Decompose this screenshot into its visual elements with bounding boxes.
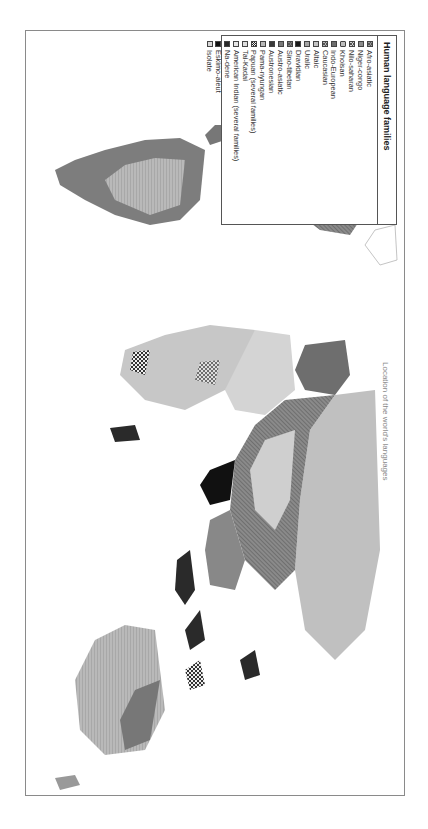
legend-swatch-icon: [358, 41, 364, 47]
legend-label: Altaic: [312, 50, 321, 68]
legend-swatch-icon: [251, 41, 257, 47]
legend-item: Sino-tibetan: [285, 41, 294, 219]
legend-swatch-icon: [260, 41, 266, 47]
legend-item: Austronesian: [267, 41, 276, 219]
legend-swatch-icon: [207, 41, 213, 47]
legend-title: Human language families: [377, 36, 396, 224]
legend-item: Dravidian: [294, 41, 303, 219]
legend-swatch-icon: [287, 41, 293, 47]
legend-item: Austro-asiatic: [276, 41, 285, 219]
madagascar-region: [110, 425, 140, 442]
legend-swatch-icon: [242, 41, 248, 47]
legend-item: Nilo-saharan: [347, 41, 356, 219]
legend-swatch-icon: [340, 41, 346, 47]
legend-label: American Indian (several families): [232, 50, 241, 161]
dravidian-region: [200, 460, 235, 505]
legend-swatch-icon: [278, 41, 284, 47]
legend-swatch-icon: [215, 41, 221, 47]
map-caption: Location of the world's languages: [381, 362, 390, 481]
legend-label: Uralic: [303, 50, 312, 69]
legend-label: Isolate: [205, 50, 214, 72]
legend-item: Uralic: [303, 41, 312, 219]
legend-label: Austro-asiatic: [276, 50, 285, 95]
legend-item: Papuan (several families): [250, 41, 259, 219]
legend-label: Na-dene: [223, 50, 232, 78]
legend-item: Afro-asiatic: [365, 41, 374, 219]
legend-label: Nilo-saharan: [347, 50, 356, 92]
legend-label: Papuan (several families): [249, 50, 258, 133]
legend-label: Sino-tibetan: [285, 50, 294, 89]
papuan-region: [185, 660, 205, 690]
legend-label: Niger-congo: [356, 50, 365, 90]
legend-swatch-icon: [367, 41, 373, 47]
legend-label: Khoisan: [338, 50, 347, 77]
legend-swatch-icon: [322, 41, 328, 47]
legend-item: Caucasian: [321, 41, 330, 219]
map-canvas: Human language families Afro-asiaticNige…: [25, 30, 405, 796]
legend-swatch-icon: [349, 41, 355, 47]
legend-item: Khoisan: [338, 41, 347, 219]
legend-label: Pama-nyungan: [258, 50, 267, 100]
legend-item: Indo-European: [330, 41, 339, 219]
philippines-region: [240, 650, 260, 680]
legend-swatch-icon: [295, 41, 301, 47]
legend-label: Dravidian: [294, 50, 303, 81]
austronesian-region-1: [175, 550, 195, 605]
legend-item: Na-dene: [223, 41, 232, 219]
legend-item: American Indian (several families): [232, 41, 241, 219]
legend-item: Isolate: [205, 41, 214, 219]
europe-region: [295, 340, 350, 395]
legend-item: Niger-congo: [356, 41, 365, 219]
legend-item: Pama-nyungan: [258, 41, 267, 219]
austronesian-region-2: [185, 610, 205, 650]
legend-label: Austronesian: [267, 50, 276, 93]
legend-label: Afro-asiatic: [365, 50, 374, 87]
legend-item: Tai-Kadai: [241, 41, 250, 219]
legend-list: Afro-asiaticNiger-congoNilo-saharanKhois…: [202, 36, 377, 224]
new-zealand-region: [55, 775, 80, 790]
legend-label: Caucasian: [321, 50, 330, 85]
legend-label: Tai-Kadai: [241, 50, 250, 81]
legend-label: Indo-European: [329, 50, 338, 99]
legend-label: Eskimo-aleut: [214, 50, 223, 93]
legend: Human language families Afro-asiaticNige…: [221, 35, 397, 225]
legend-swatch-icon: [224, 41, 230, 47]
legend-item: Altaic: [312, 41, 321, 219]
legend-swatch-icon: [269, 41, 275, 47]
legend-swatch-icon: [233, 41, 239, 47]
legend-swatch-icon: [331, 41, 337, 47]
legend-swatch-icon: [313, 41, 319, 47]
legend-item: Eskimo-aleut: [214, 41, 223, 219]
greenland-outline: [365, 225, 397, 265]
legend-swatch-icon: [304, 41, 310, 47]
